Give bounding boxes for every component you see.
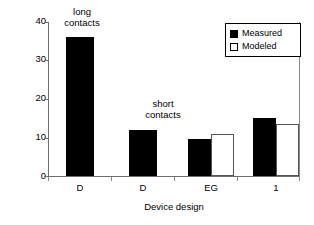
x-tick-label-0: D xyxy=(50,182,110,193)
y-tick-label-10: 10 xyxy=(24,132,46,142)
annotation-long-contacts-line1: long xyxy=(52,6,112,17)
x-tick-mark-1 xyxy=(111,177,112,181)
y-tick-mark-30 xyxy=(44,60,48,61)
y-tick-mark-40 xyxy=(44,22,48,23)
x-tick-mark-3 xyxy=(237,177,238,181)
annotation-short-contacts: short contacts xyxy=(132,98,194,120)
y-axis-line xyxy=(48,22,49,177)
bar-measured-group-0 xyxy=(66,37,94,176)
annotation-long-contacts: long contacts xyxy=(52,6,112,28)
legend-item-modeled: Modeled xyxy=(230,40,296,53)
y-tick-label-group: 40 30 20 10 0 xyxy=(22,0,46,225)
bar-measured-group-2 xyxy=(188,139,211,176)
y-tick-label-0: 0 xyxy=(24,171,46,181)
x-axis-title: Device design xyxy=(48,201,300,212)
x-tick-label-3: 1 xyxy=(246,182,306,193)
y-tick-label-40: 40 xyxy=(24,16,46,26)
legend-swatch-open-icon xyxy=(230,43,238,51)
legend-label-modeled: Modeled xyxy=(242,41,277,52)
y-tick-mark-10 xyxy=(44,138,48,139)
legend-label-measured: Measured xyxy=(242,28,282,39)
x-tick-label-1: D xyxy=(113,182,173,193)
y-tick-label-30: 30 xyxy=(24,54,46,64)
x-tick-mark-0 xyxy=(48,177,49,181)
bar-measured-group-3 xyxy=(253,118,276,176)
annotation-short-contacts-line1: short xyxy=(132,98,194,109)
annotation-short-contacts-line2: contacts xyxy=(132,109,194,120)
annotation-long-contacts-line2: contacts xyxy=(52,17,112,28)
x-tick-label-2: EG xyxy=(181,182,241,193)
y-tick-mark-20 xyxy=(44,99,48,100)
bar-modeled-group-3 xyxy=(276,124,299,176)
y-tick-label-20: 20 xyxy=(24,93,46,103)
x-tick-mark-4 xyxy=(299,177,300,181)
bar-chart-figure: Transmission loss (dB/Lπ) 40 30 20 10 0 xyxy=(0,0,314,225)
bar-measured-group-1 xyxy=(129,130,157,176)
legend-item-measured: Measured xyxy=(230,27,296,40)
bar-modeled-group-2 xyxy=(211,134,234,176)
legend-box: Measured Modeled xyxy=(225,23,301,57)
x-tick-mark-2 xyxy=(174,177,175,181)
legend-swatch-filled-icon xyxy=(230,30,238,38)
